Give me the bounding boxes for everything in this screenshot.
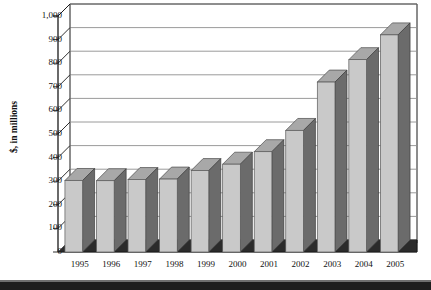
bar-side-face (114, 169, 126, 252)
bar-1999 (191, 159, 221, 252)
gridline-depth (58, 28, 70, 40)
bar-side-face (335, 70, 347, 252)
x-axis-label-2005: 2005 (378, 259, 412, 269)
bar-1995 (65, 168, 95, 252)
bar-1996 (96, 169, 126, 252)
bar-side-face (398, 23, 410, 252)
x-axis-label-2001: 2001 (252, 259, 286, 269)
x-axis-label-2000: 2000 (221, 259, 255, 269)
bar-2005 (380, 23, 410, 252)
bar-side-face (303, 118, 315, 252)
bar-front-face (223, 164, 241, 252)
bar-side-face (367, 48, 379, 252)
bar-2001 (254, 140, 284, 252)
bar-side-face (177, 167, 189, 252)
gridline-depth (58, 146, 70, 158)
bar-side-face (240, 152, 252, 252)
page-bottom-band (0, 282, 431, 290)
bar-2000 (223, 152, 253, 252)
x-axis-label-2003: 2003 (315, 259, 349, 269)
bar-front-face (65, 180, 83, 252)
bar-side-face (146, 168, 158, 252)
gridline-depth (58, 122, 70, 134)
bar-front-face (286, 130, 304, 252)
bar-front-face (160, 179, 178, 252)
bar-front-face (254, 152, 272, 252)
gridline-depth (58, 51, 70, 63)
gridline-depth (58, 98, 70, 110)
bar-1997 (128, 168, 158, 252)
plot-area (0, 0, 431, 290)
bar-front-face (191, 171, 209, 252)
gridline-depth (58, 75, 70, 87)
bar-2003 (317, 70, 347, 252)
bar-front-face (317, 82, 335, 252)
x-axis-label-1996: 1996 (94, 259, 128, 269)
x-axis-label-1999: 1999 (189, 259, 223, 269)
bar-front-face (128, 180, 146, 252)
x-axis-label-2004: 2004 (347, 259, 381, 269)
bar-side-face (83, 168, 95, 252)
bar-side-face (209, 159, 221, 252)
bar-front-face (349, 60, 367, 252)
bar-1998 (160, 167, 190, 252)
bar-front-face (96, 181, 114, 252)
x-axis-label-1998: 1998 (157, 259, 191, 269)
x-axis-label-1997: 1997 (126, 259, 160, 269)
bar-front-face (380, 35, 398, 252)
bar-side-face (272, 140, 284, 252)
bar-2004 (349, 48, 379, 252)
x-axis-label-2002: 2002 (284, 259, 318, 269)
x-axis-label-1995: 1995 (63, 259, 97, 269)
axis-depth-edge (58, 4, 70, 16)
bar-2002 (286, 118, 316, 252)
bar-chart: $, in millions 0100200300400500600700800… (0, 0, 431, 290)
